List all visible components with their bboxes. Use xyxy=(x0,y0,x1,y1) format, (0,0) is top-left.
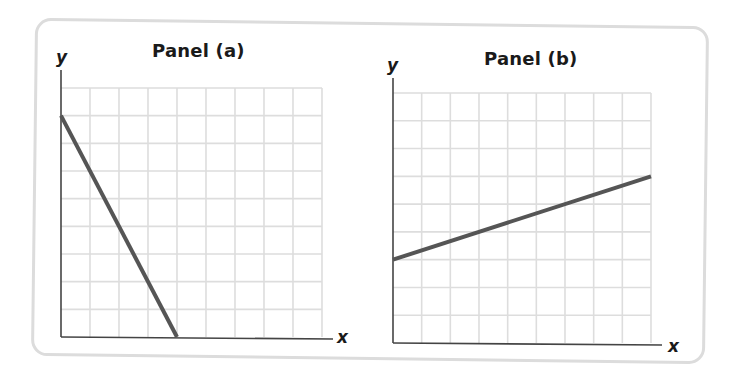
x-axis xyxy=(393,343,662,345)
panel-b-plot xyxy=(0,0,740,378)
data-line xyxy=(393,176,651,259)
